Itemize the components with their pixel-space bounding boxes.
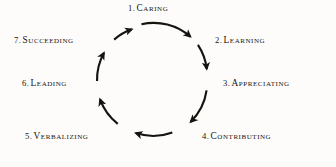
cycle-step-number-6: 6. [22, 78, 31, 88]
cycle-step-name-7: Succeeding [23, 35, 74, 45]
cycle-step-name-2: Learning [224, 35, 266, 45]
cycle-step-label-7: 7.Succeeding [14, 35, 74, 46]
cycle-step-number-2: 2. [215, 35, 224, 45]
cycle-step-name-6: Leading [31, 78, 67, 88]
cycle-step-label-2: 2.Learning [215, 35, 265, 46]
cycle-step-name-4: Contributing [211, 131, 272, 141]
cycle-step-name-5: Verbalizing [34, 131, 89, 141]
cycle-step-number-3: 3. [223, 78, 232, 88]
cycle-arc-1 [141, 23, 190, 37]
cycle-step-name-1: Caring [137, 3, 169, 13]
cycle-step-label-3: 3.Appreciating [223, 78, 290, 89]
cycle-step-label-5: 5.Verbalizing [25, 131, 88, 142]
cycle-arc-5 [100, 99, 118, 123]
cycle-step-name-3: Appreciating [232, 78, 290, 88]
cycle-arc-4 [136, 132, 172, 135]
cycle-step-label-1: 1.Caring [128, 3, 168, 14]
cycle-arc-group [97, 23, 207, 136]
cycle-arc-7 [114, 29, 132, 39]
cycle-step-label-6: 6.Leading [22, 78, 67, 89]
cycle-step-number-1: 1. [128, 3, 137, 13]
cycle-step-number-5: 5. [25, 131, 34, 141]
cycle-step-label-4: 4.Contributing [202, 131, 271, 142]
cycle-step-number-4: 4. [202, 131, 211, 141]
cycle-step-number-7: 7. [14, 35, 23, 45]
cycle-arc-3 [191, 90, 207, 121]
cycle-arc-2 [198, 45, 207, 69]
cycle-diagram-figure: 1.Caring 2.Learning 3.Appreciating 4.Con… [0, 0, 336, 167]
cycle-arc-6 [97, 53, 104, 81]
